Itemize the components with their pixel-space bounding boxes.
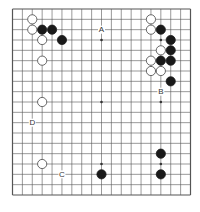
go-board[interactable]: ABCD [0,0,200,212]
black-stone[interactable] [97,170,106,179]
star-point [160,39,163,42]
white-stone[interactable] [28,15,37,24]
white-stone[interactable] [38,97,47,106]
star-point [160,163,163,166]
black-stone[interactable] [166,46,175,55]
star-point [100,39,103,42]
point-label-b: B [158,87,163,96]
white-stone[interactable] [156,46,165,55]
white-stone[interactable] [28,25,37,34]
black-stone[interactable] [156,56,165,65]
black-stone[interactable] [156,25,165,34]
black-stone[interactable] [57,35,66,44]
point-label-d: D [29,118,35,127]
black-stone[interactable] [166,35,175,44]
white-stone[interactable] [38,159,47,168]
black-stone[interactable] [166,77,175,86]
white-stone[interactable] [146,25,155,34]
black-stone[interactable] [156,149,165,158]
white-stone[interactable] [146,56,155,65]
point-label-c: C [59,170,65,179]
white-stone[interactable] [38,35,47,44]
black-stone[interactable] [38,25,47,34]
white-stone[interactable] [156,66,165,75]
black-stone[interactable] [166,56,175,65]
point-label-a: A [99,25,105,34]
star-point [160,101,163,104]
star-point [100,101,103,104]
white-stone[interactable] [38,56,47,65]
black-stone[interactable] [47,25,56,34]
star-point [100,163,103,166]
white-stone[interactable] [146,66,155,75]
black-stone[interactable] [156,170,165,179]
white-stone[interactable] [146,15,155,24]
